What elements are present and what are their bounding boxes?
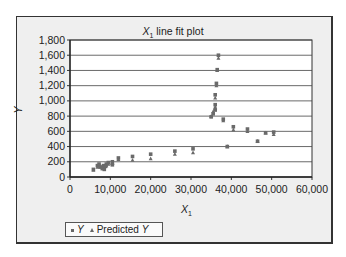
y-tick-label: 1,800 — [39, 34, 65, 46]
data-point-y — [191, 147, 195, 151]
y-tick-label: 1,000 — [39, 94, 65, 106]
y-tick-label: 200 — [47, 155, 65, 167]
x-tick-label: 50,000 — [256, 183, 288, 195]
x-tick-label: 30,000 — [175, 183, 207, 195]
legend-item-predicted-y: Predicted Y — [90, 224, 149, 235]
y-axis-label: Y — [12, 106, 24, 113]
y-tick-label: 800 — [47, 110, 65, 122]
square-marker-icon — [71, 229, 74, 232]
y-tick-label: 1,600 — [39, 49, 65, 61]
y-tick-label: 400 — [47, 140, 65, 152]
triangle-marker-icon — [90, 228, 94, 232]
x-tick-label: 40,000 — [215, 183, 247, 195]
x-tick-label: 10,000 — [94, 183, 126, 195]
x-axis-label-sub: 1 — [188, 210, 192, 217]
legend: Y Predicted Y — [65, 222, 163, 237]
x-tick-label: 0 — [67, 183, 73, 195]
x-axis-label-var: X — [181, 203, 188, 215]
y-tick-label: 0 — [59, 171, 65, 183]
plot-background — [70, 40, 312, 177]
x-tick-label: 20,000 — [135, 183, 167, 195]
x-tick-label: 60,000 — [296, 183, 328, 195]
y-tick-label: 600 — [47, 125, 65, 137]
legend-item-y: Y — [71, 224, 84, 235]
plot-area: 02004006008001,0001,2001,4001,6001,80001… — [0, 0, 346, 257]
data-point-y — [149, 152, 153, 156]
x-axis-label: X1 — [181, 203, 192, 217]
y-tick-label: 1,400 — [39, 64, 65, 76]
y-tick-label: 1,200 — [39, 79, 65, 91]
data-point-y — [131, 155, 135, 159]
